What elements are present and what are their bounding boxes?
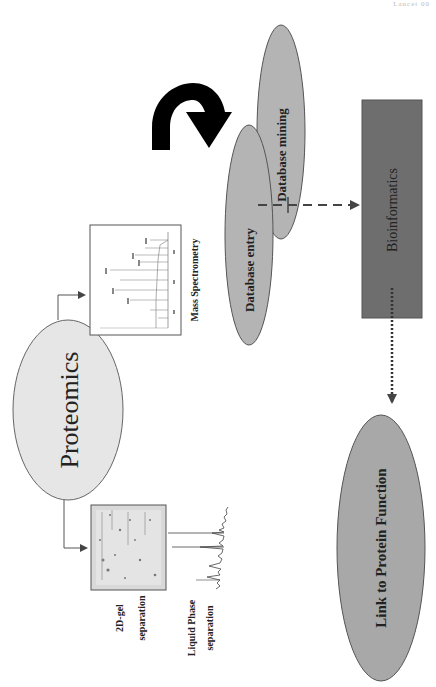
mass-spec-spectrum-image bbox=[90, 225, 181, 335]
proteomics-label: Proteomics bbox=[55, 352, 84, 469]
gel-label-line1: 2D-gel bbox=[114, 604, 125, 632]
gel-label: 2D-gel separation bbox=[114, 595, 147, 640]
2d-gel-image bbox=[91, 505, 166, 590]
database-entry-label: Database entry bbox=[242, 227, 257, 312]
bioinformatics-node: Bioinformatics bbox=[362, 100, 422, 318]
gel-label-line2: separation bbox=[136, 595, 147, 640]
arrow-proteomics-to-gel bbox=[64, 500, 86, 548]
proteomics-workflow-diagram: Proteomics bbox=[0, 0, 436, 687]
database-mining-label: Database mining bbox=[274, 108, 289, 202]
curved-arrow-icon bbox=[152, 83, 232, 150]
liquid-phase-chromatogram bbox=[168, 507, 228, 589]
liquid-label-line1: Liquid Phase bbox=[186, 599, 197, 656]
liquid-label: Liquid Phase separation bbox=[186, 599, 215, 656]
bioinformatics-label: Bioinformatics bbox=[385, 168, 400, 252]
database-entry-node: Database entry bbox=[225, 125, 273, 345]
link-protein-function-label: Link to Protein Function bbox=[373, 468, 389, 628]
arrow-proteomics-to-ms bbox=[58, 295, 84, 320]
link-protein-function-node: Link to Protein Function bbox=[337, 415, 425, 681]
liquid-label-line2: separation bbox=[204, 605, 215, 650]
proteomics-node: Proteomics bbox=[13, 320, 123, 500]
mass-spec-label: Mass Spectrometry bbox=[189, 239, 200, 322]
